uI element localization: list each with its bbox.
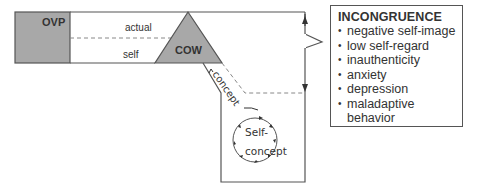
concept-label: concept xyxy=(210,69,242,108)
incongruence-list: negative self-image low self-regard inau… xyxy=(338,24,462,126)
list-item: maladaptive behavior xyxy=(338,97,462,126)
list-item: low self-regard xyxy=(338,39,462,54)
concept-flow-arrow xyxy=(209,69,213,73)
list-item: inauthenticity xyxy=(338,53,462,68)
incongruence-box: INCONGRUENCE negative self-image low sel… xyxy=(330,5,463,127)
self-concept-label-2: concept xyxy=(245,145,287,157)
list-item: negative self-image xyxy=(338,24,462,39)
concept-dashed-boundary xyxy=(222,63,305,93)
bracket-pointer xyxy=(305,34,322,48)
arrow-up-icon xyxy=(302,16,308,24)
ovp-label: OVP xyxy=(42,16,65,28)
cow-label: COW xyxy=(175,44,203,56)
self-concept-label-1: Self- xyxy=(245,126,268,138)
concept-to-circle-arrow xyxy=(244,108,258,110)
list-item: anxiety xyxy=(338,68,462,83)
actual-label: actual xyxy=(125,22,152,33)
arrow-down-icon xyxy=(302,84,308,92)
list-item: depression xyxy=(338,82,462,97)
incongruence-title: INCONGRUENCE xyxy=(338,10,462,24)
self-label: self xyxy=(123,49,139,60)
